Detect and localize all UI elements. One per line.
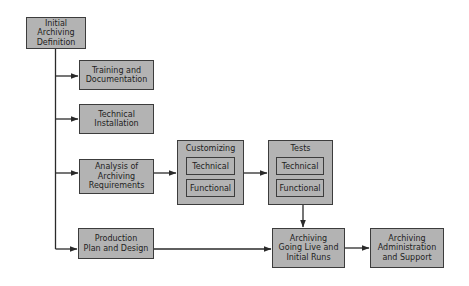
node-training-and-documentation: Training and Documentation: [79, 60, 154, 90]
customizing-functional: Functional: [186, 179, 235, 197]
node-tests: Tests Technical Functional: [268, 140, 333, 205]
node-customizing: Customizing Technical Functional: [177, 140, 244, 205]
node-technical-installation: Technical Installation: [79, 104, 154, 134]
tests-functional: Functional: [276, 179, 324, 197]
node-archiving-going-live: Archiving Going Live and Initial Runs: [272, 228, 345, 268]
node-analysis-of-archiving-requirements: Analysis of Archiving Requirements: [79, 159, 154, 194]
node-initial-archiving-definition: Initial Archiving Definition: [26, 17, 86, 49]
tests-technical: Technical: [276, 157, 324, 175]
customizing-title: Customizing: [178, 144, 243, 154]
node-production-plan-and-design: Production Plan and Design: [78, 228, 154, 259]
customizing-technical: Technical: [186, 157, 235, 175]
node-archiving-administration-and-support: Archiving Administration and Support: [370, 228, 444, 268]
tests-title: Tests: [269, 144, 332, 154]
